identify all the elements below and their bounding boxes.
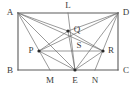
point-dot-p [37, 49, 40, 52]
point-label-p: P [28, 46, 33, 55]
point-label-m: M [46, 76, 54, 85]
point-label-s: S [76, 41, 81, 50]
geometry-canvas [0, 0, 136, 87]
point-label-a: A [7, 8, 14, 17]
segment-PQ [39, 31, 68, 51]
point-label-r: R [108, 46, 114, 55]
point-label-b: B [7, 66, 13, 75]
segment-LE [68, 13, 75, 70]
segment-AQ [18, 13, 68, 31]
point-label-e: E [72, 76, 78, 85]
point-dot-q [66, 29, 69, 32]
geometry-figure: ADBCLQPRSMEN [0, 0, 136, 87]
point-label-c: C [123, 66, 129, 75]
point-dot-r [101, 49, 104, 52]
segment-DN [95, 13, 118, 70]
segment-QR [68, 31, 103, 51]
point-label-d: D [123, 8, 130, 17]
point-dot-e [73, 68, 76, 71]
point-label-l: L [65, 1, 71, 10]
segment-AM [18, 13, 50, 70]
segment-AE [18, 13, 75, 70]
point-label-q: Q [74, 25, 81, 34]
point-label-n: N [92, 76, 99, 85]
